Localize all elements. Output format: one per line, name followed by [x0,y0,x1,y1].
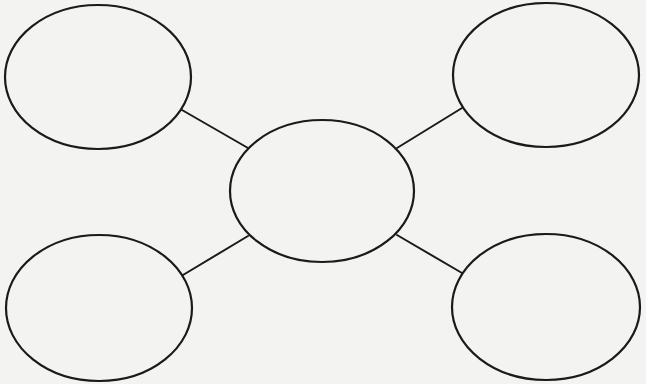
paper-background [0,0,646,384]
bubble-map-diagram [0,0,646,384]
